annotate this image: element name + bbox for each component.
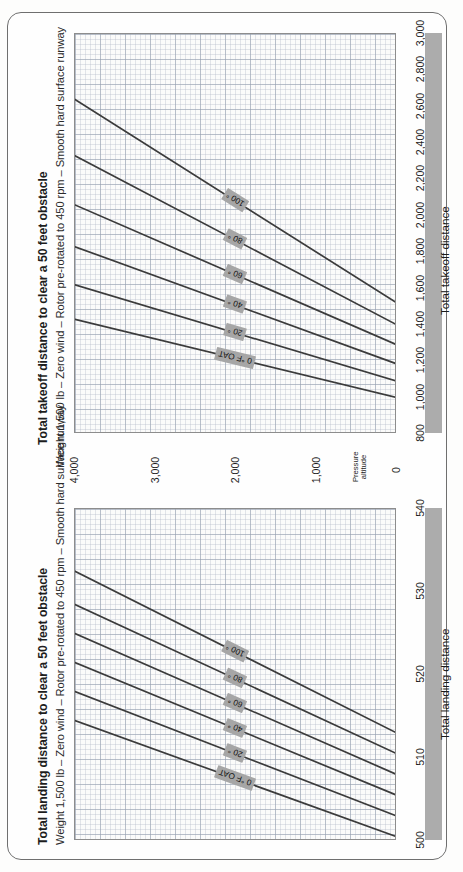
pressure-altitude-tick: 2,000 xyxy=(229,457,241,484)
pressure-altitude-tick: 1,000 xyxy=(310,457,322,484)
pa-caption-line2: altitude xyxy=(359,455,368,480)
pressure-altitude-caption: Pressure altitude xyxy=(352,452,368,482)
figure-page: Total takeoff distance to clear a 50 fee… xyxy=(0,0,463,872)
pressure-altitude-tick: 3,000 xyxy=(149,457,161,484)
takeoff-axis-label: Total takeoff distance xyxy=(438,206,451,315)
takeoff-title: Total takeoff distance to clear a 50 fee… xyxy=(36,171,50,445)
landing-axis-label: Total landing distance xyxy=(438,628,451,740)
pressure-altitude-tick: 0 xyxy=(390,467,402,473)
landing-subtitle: Weight 1,500 lb – Zero wind – Rotor pre-… xyxy=(54,405,66,845)
pressure-altitude-tick: 4,000 xyxy=(68,457,80,484)
landing-title: Total landing distance to clear a 50 fee… xyxy=(36,568,50,845)
takeoff-subtitle: Weight 1,500 lb – Zero wind – Rotor pre-… xyxy=(54,27,66,467)
